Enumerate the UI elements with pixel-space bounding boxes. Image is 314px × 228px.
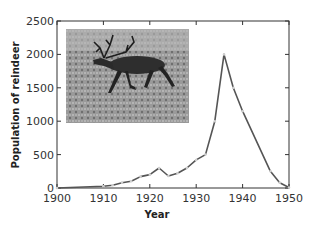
x-tick-label: 1920 xyxy=(136,192,164,205)
y-tick-label: 2000 xyxy=(26,48,54,61)
data-point xyxy=(102,185,105,188)
x-tick-label: 1900 xyxy=(43,192,71,205)
data-point xyxy=(130,180,133,183)
data-point xyxy=(269,170,272,173)
data-point xyxy=(204,153,207,156)
data-point xyxy=(288,186,291,189)
y-axis-title: Population of reindeer xyxy=(10,41,21,168)
data-point xyxy=(56,187,59,190)
data-point xyxy=(223,53,226,56)
data-point xyxy=(195,159,198,162)
x-tick-label: 1910 xyxy=(89,192,117,205)
x-tick-label: 1950 xyxy=(275,192,303,205)
x-tick-label: 1930 xyxy=(182,192,210,205)
data-point xyxy=(121,181,124,184)
x-tick-label: 1940 xyxy=(229,192,257,205)
y-tick-label: 1000 xyxy=(26,115,54,128)
data-point xyxy=(167,175,170,178)
data-point xyxy=(278,181,281,184)
data-point xyxy=(111,184,114,187)
data-point xyxy=(213,120,216,123)
data-point xyxy=(158,167,161,170)
data-point xyxy=(149,173,152,176)
data-point xyxy=(176,172,179,175)
y-tick-label: 1500 xyxy=(26,82,54,95)
data-point xyxy=(186,167,189,170)
reindeer-population-chart: 05001000150020002500 1900191019201930194… xyxy=(0,0,314,228)
data-point xyxy=(139,175,142,178)
x-axis-title: Year xyxy=(144,209,170,220)
reindeer-photo xyxy=(66,29,189,123)
y-tick-label: 2500 xyxy=(26,15,54,28)
data-point xyxy=(232,87,235,90)
data-point xyxy=(241,110,244,113)
y-tick-label: 500 xyxy=(33,149,54,162)
